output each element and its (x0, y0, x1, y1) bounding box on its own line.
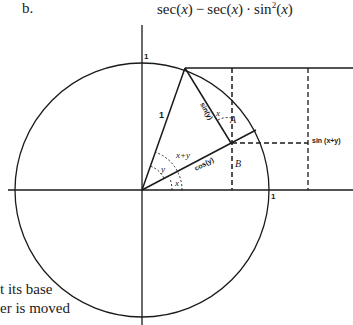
angle-x-label: x (174, 178, 179, 188)
sin-x-plus-y-label: sin (x+y) (312, 137, 341, 145)
point-a-label: A (229, 114, 237, 125)
unit-circle-diagram: 1 1 1 sin(y) cos(y) sin (x+y) x y x+y x … (0, 0, 353, 325)
angle-y-label: y (160, 164, 165, 174)
hypotenuse-label: 1 (159, 110, 164, 120)
axis-label-top: 1 (144, 52, 149, 61)
angle-x-top-label: x (215, 108, 220, 118)
point-b-label: B (235, 158, 241, 169)
cut-off-text-line-1: t its base (0, 281, 53, 298)
sin-y-label: sin(y) (198, 101, 214, 121)
angle-x-plus-y-label: x+y (175, 150, 190, 160)
cos-y-label: cos(y) (193, 156, 215, 173)
angle-x-arc (170, 179, 172, 190)
cut-off-text-line-2: er is moved (0, 300, 70, 317)
axis-label-right: 1 (271, 192, 276, 201)
